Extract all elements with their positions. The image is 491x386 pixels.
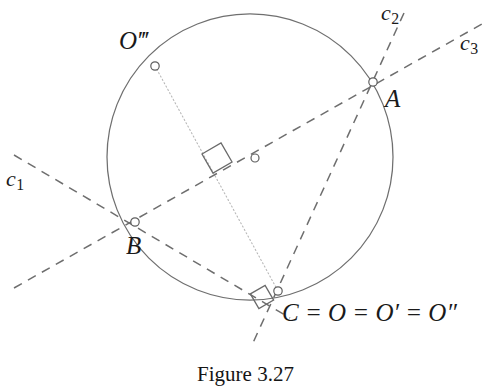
point-marker-otriple — [151, 62, 159, 70]
line-label-c3: c3 — [460, 32, 478, 57]
chord-otriple-c — [155, 66, 278, 291]
point-label-b: B — [126, 233, 141, 258]
figure-caption: Figure 3.27 — [0, 362, 491, 386]
line-label-c1-subscript: 1 — [16, 176, 24, 193]
line-label-c1: c1 — [6, 168, 24, 193]
circle-group — [107, 14, 393, 300]
construction-lines — [14, 13, 482, 345]
line-c3 — [14, 24, 482, 288]
line-label-c3-base: c — [460, 30, 470, 55]
chord-group — [155, 66, 278, 291]
point-marker-c — [274, 287, 282, 295]
line-c2 — [252, 13, 404, 345]
line-label-c3-subscript: 3 — [470, 40, 478, 57]
point-label-a: A — [385, 86, 400, 111]
right-angle-center-icon — [202, 143, 232, 173]
point-marker-midpoint — [251, 154, 259, 162]
figure-container: A B C = O = O′ = O″ O‴ c1 c2 c3 Figure 3… — [0, 0, 491, 386]
line-label-c2: c2 — [381, 2, 399, 27]
point-marker-a — [369, 78, 377, 86]
right-angle-markers — [202, 143, 274, 309]
circumscribed-circle — [107, 14, 393, 300]
point-label-c-equalities: C = O = O′ = O″ — [282, 300, 457, 325]
point-marker-b — [131, 218, 139, 226]
point-label-o-triple-prime: O‴ — [119, 28, 148, 53]
line-label-c1-base: c — [6, 166, 16, 191]
geometry-diagram — [0, 0, 491, 386]
point-markers — [131, 62, 377, 295]
line-label-c2-base: c — [381, 0, 391, 25]
line-label-c2-subscript: 2 — [391, 10, 399, 27]
